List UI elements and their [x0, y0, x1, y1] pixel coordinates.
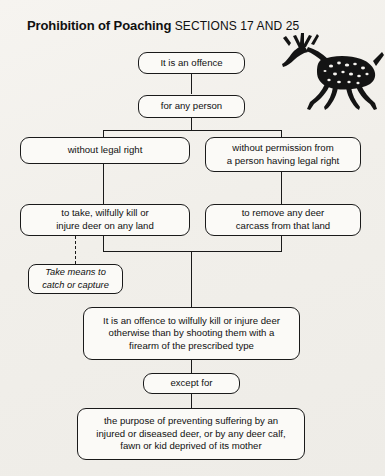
connector-n1-n2	[191, 74, 192, 94]
node-label: the purpose of preventing suffering by a…	[96, 415, 285, 453]
connector-n4-n6	[281, 172, 282, 204]
node-it-is-an-offence[interactable]: It is an offence	[138, 52, 245, 74]
node-label: Take means to catch or capture	[42, 266, 109, 291]
node-except-for[interactable]: except for	[143, 373, 240, 394]
node-label: for any person	[161, 100, 222, 113]
connector-n3-n5	[103, 164, 104, 204]
node-to-take-wilfully-kill[interactable]: to take, wilfully kill or injure deer on…	[20, 204, 190, 236]
connector-n8-n9	[191, 360, 192, 373]
connector-n5-merge	[103, 236, 104, 252]
node-label: to remove any deer carcass from that lan…	[236, 207, 330, 232]
node-for-any-person[interactable]: for any person	[138, 95, 245, 118]
page-title-sections: SECTIONS 17 AND 25	[175, 19, 300, 33]
flowchart-page: Prohibition of Poaching SECTIONS 17 AND …	[0, 0, 385, 476]
node-label: to take, wilfully kill or injure deer on…	[56, 207, 154, 232]
node-to-remove-any-deer-carcass[interactable]: to remove any deer carcass from that lan…	[205, 204, 361, 236]
node-label: It is an offence to wilfully kill or inj…	[103, 315, 280, 353]
node-label: except for	[170, 377, 212, 390]
page-title-main: Prohibition of Poaching	[27, 18, 171, 33]
node-note-take-means-to-catch-or-capture[interactable]: Take means to catch or capture	[28, 264, 123, 294]
node-without-legal-right[interactable]: without legal right	[20, 137, 190, 164]
page-title: Prohibition of Poaching SECTIONS 17 AND …	[27, 18, 299, 33]
connector-split-bar-top	[103, 130, 282, 131]
connector-merge-n8	[191, 251, 192, 307]
node-label: It is an offence	[160, 57, 222, 70]
connector-n6-merge	[281, 236, 282, 252]
node-purpose-preventing-suffering[interactable]: the purpose of preventing suffering by a…	[77, 408, 305, 460]
connector-n5-note-dashed	[75, 236, 76, 264]
node-label: without permission from a person having …	[227, 142, 340, 167]
node-without-permission[interactable]: without permission from a person having …	[205, 137, 361, 172]
connector-n9-n10	[191, 394, 192, 408]
node-label: without legal right	[68, 144, 143, 157]
connector-merge-bar	[103, 251, 282, 252]
node-offence-shooting-firearm[interactable]: It is an offence to wilfully kill or inj…	[83, 307, 300, 360]
